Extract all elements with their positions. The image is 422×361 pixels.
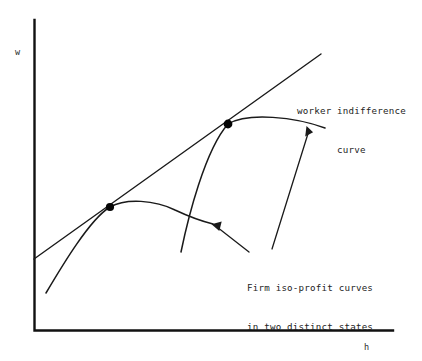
firm-iso-profit-curves-label: Firm iso-profit curves in two distinct s… — [247, 255, 373, 359]
worker-label-line-1: worker indifference — [297, 104, 406, 117]
tangency-point-high — [224, 120, 233, 129]
leader-line-lower — [217, 227, 249, 252]
economics-figure: w h worker indifference curve Firm iso-p… — [0, 0, 422, 361]
tangency-point-low — [106, 203, 114, 211]
firm-label-line-2: in two distinct states — [247, 320, 373, 333]
worker-indifference-curve-label: worker indifference curve — [297, 78, 406, 182]
y-axis-label: w — [15, 47, 20, 57]
firm-iso-profit-curve-low — [46, 201, 213, 293]
firm-label-line-1: Firm iso-profit curves — [247, 281, 373, 294]
worker-label-line-2: curve — [297, 143, 406, 156]
